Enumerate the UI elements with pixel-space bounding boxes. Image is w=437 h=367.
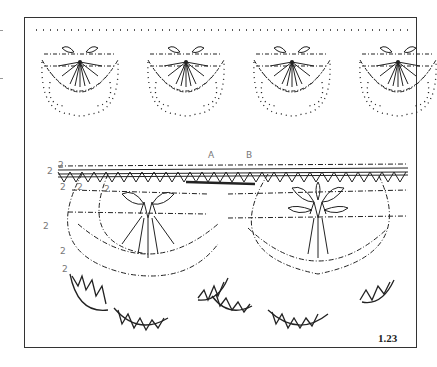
point-label-a: A xyxy=(208,150,214,160)
pair-label: 2 xyxy=(62,264,68,274)
pair-label: 2 xyxy=(60,246,66,256)
point-label-b: B xyxy=(246,150,252,160)
pair-label: 2 xyxy=(77,182,83,192)
pair-label: 2 xyxy=(104,184,110,194)
pair-label: 2 xyxy=(43,221,49,231)
pair-label: 2 xyxy=(60,182,66,192)
figure-number: 1.23 xyxy=(378,332,397,344)
pair-label: 2 xyxy=(58,160,64,170)
pair-label: 2 xyxy=(47,166,53,176)
